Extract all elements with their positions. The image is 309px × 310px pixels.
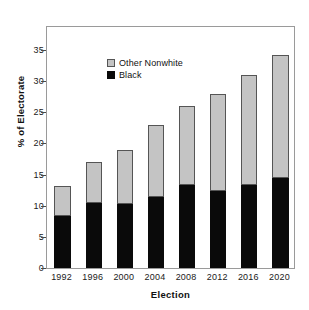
y-axis-tick-label: 15	[0, 170, 44, 180]
stacked-bar-chart-figure: % of Electorate 05101520253035 Other Non…	[0, 0, 309, 310]
bar-segment-other-nonwhite	[241, 75, 257, 185]
bar-segment-other-nonwhite	[117, 150, 133, 204]
bar-segment-black	[210, 191, 226, 268]
legend-swatch-other-nonwhite	[107, 59, 115, 67]
bar-segment-black	[54, 216, 70, 268]
x-axis-label: Election	[46, 289, 295, 300]
stacked-bar	[179, 106, 195, 268]
bar-segment-other-nonwhite	[54, 186, 70, 217]
y-axis-tick-label: 25	[0, 107, 44, 117]
bar-segment-other-nonwhite	[272, 55, 288, 178]
y-axis-tick-label: 30	[0, 76, 44, 86]
stacked-bar	[117, 150, 133, 268]
bar-segment-black	[179, 185, 195, 268]
bar-segment-black	[272, 178, 288, 268]
stacked-bar	[148, 125, 164, 268]
y-axis-tick-label: 5	[0, 232, 44, 242]
legend-label-black: Black	[119, 70, 142, 80]
y-axis-tick-label: 35	[0, 45, 44, 55]
legend-label-other-nonwhite: Other Nonwhite	[119, 58, 183, 68]
bar-segment-black	[86, 203, 102, 268]
stacked-bar	[210, 94, 226, 268]
y-axis-tick-label: 10	[0, 201, 44, 211]
x-axis-tick-label: 2020	[259, 272, 299, 282]
stacked-bar	[241, 75, 257, 268]
stacked-bar	[54, 186, 70, 268]
y-axis-tick-label: 0	[0, 263, 44, 273]
bar-segment-other-nonwhite	[210, 94, 226, 191]
plot-area: Other Nonwhite Black	[46, 26, 295, 269]
legend: Other Nonwhite Black	[107, 57, 183, 81]
bar-segment-black	[241, 185, 257, 268]
bar-segment-other-nonwhite	[148, 125, 164, 197]
legend-swatch-black	[107, 71, 115, 79]
stacked-bar	[86, 162, 102, 268]
bar-segment-black	[148, 197, 164, 268]
bar-segment-other-nonwhite	[179, 106, 195, 184]
legend-item-black: Black	[107, 69, 183, 80]
bar-segment-other-nonwhite	[86, 162, 102, 203]
bar-segment-black	[117, 204, 133, 268]
y-axis-tick-label: 20	[0, 138, 44, 148]
legend-item-other-nonwhite: Other Nonwhite	[107, 57, 183, 68]
stacked-bar	[272, 55, 288, 268]
